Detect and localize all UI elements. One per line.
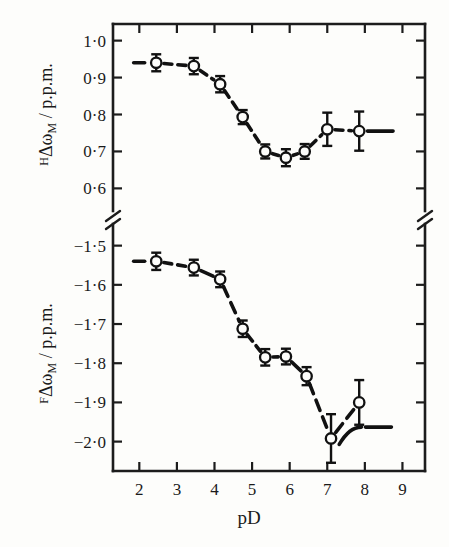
data-point-marker — [281, 153, 291, 163]
axis-break-marks — [106, 211, 432, 229]
upper-panel-y-tick-labels: 1·00·90·80·70·6 — [83, 32, 106, 199]
figure-container: HΔωM / p.p.m. FΔωM / p.p.m. 1·00·90·80·7… — [0, 0, 449, 547]
series-connector — [309, 383, 328, 431]
x-tick-label: 8 — [361, 480, 370, 499]
y-tick-label: −1·7 — [74, 315, 107, 334]
series-connector — [293, 154, 297, 155]
y-tick-label: −2·0 — [74, 433, 106, 452]
data-point-marker — [189, 262, 199, 272]
y-tick-label: −1·5 — [74, 237, 106, 256]
data-point-marker — [301, 371, 311, 381]
series-connector — [224, 91, 238, 111]
x-tick-label: 7 — [323, 480, 332, 499]
x-tick-label: 9 — [398, 480, 407, 499]
data-point-marker — [215, 274, 225, 284]
series-connector — [273, 154, 279, 156]
upper-panel-y-axis-title: HΔωM / p.p.m. — [36, 63, 59, 165]
x-axis-tick-labels: 23456789 — [135, 480, 407, 499]
x-tick-label: 4 — [210, 480, 219, 499]
series-connector — [223, 286, 239, 321]
y-tick-label: 0·8 — [83, 106, 106, 125]
lower-panel-y-tick-labels: −1·5−1·6−1·7−1·8−1·9−2·0 — [74, 237, 107, 452]
data-point-marker — [326, 433, 336, 443]
data-point-marker — [237, 324, 247, 334]
series-connector — [247, 335, 260, 352]
y-tick-label: 0·6 — [83, 179, 106, 198]
upper-panel-data-series — [134, 54, 393, 166]
lower-panel-y-axis-title: FΔωM / p.p.m. — [36, 303, 59, 403]
x-tick-label: 6 — [285, 480, 294, 499]
x-tick-label: 3 — [173, 480, 182, 499]
y-tick-label: −1·9 — [74, 393, 106, 412]
data-point-marker — [260, 352, 270, 362]
plot-frame — [113, 24, 425, 471]
series-connector — [200, 70, 214, 79]
data-point-marker — [354, 397, 364, 407]
lower-panel-data-series — [134, 253, 393, 463]
y-tick-label: 1·0 — [83, 32, 106, 51]
y-axis-label: FΔωM / p.p.m. — [36, 303, 59, 403]
data-point-marker — [189, 61, 199, 71]
y-tick-label: 0·7 — [83, 142, 106, 161]
data-point-marker — [151, 256, 161, 266]
series-connector — [164, 63, 186, 65]
x-tick-label: 5 — [248, 480, 257, 499]
series-connector — [201, 271, 213, 276]
chart-plot: HΔωM / p.p.m. FΔωM / p.p.m. 1·00·90·80·7… — [0, 0, 449, 547]
y-tick-label: −1·8 — [74, 354, 106, 373]
series-tail-curve — [339, 427, 361, 444]
data-point-marker — [300, 146, 310, 156]
series-connector — [164, 263, 186, 267]
series-connector — [247, 124, 261, 145]
data-point-marker — [281, 351, 291, 361]
data-point-marker — [354, 126, 364, 136]
series-connector — [310, 135, 322, 146]
x-axis-title: pD — [237, 507, 260, 528]
data-point-marker — [260, 146, 270, 156]
y-axis-label: HΔωM / p.p.m. — [36, 63, 59, 165]
x-tick-label: 2 — [135, 480, 144, 499]
data-point-marker — [151, 58, 161, 68]
data-point-marker — [322, 124, 332, 134]
series-connector — [335, 130, 352, 131]
series-connector — [292, 362, 301, 371]
data-point-marker — [215, 79, 225, 89]
x-axis-label: pD — [237, 507, 260, 528]
data-point-marker — [237, 112, 247, 122]
y-tick-label: 0·9 — [83, 69, 106, 88]
axis-tick-marks — [113, 24, 425, 471]
y-tick-label: −1·6 — [74, 276, 106, 295]
